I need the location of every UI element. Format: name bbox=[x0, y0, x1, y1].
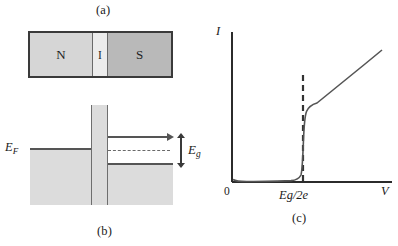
nis-junction-diagram: N I S bbox=[28, 31, 173, 78]
fermi-energy-symbol: E bbox=[5, 140, 13, 154]
energy-gap-label: Eg bbox=[188, 142, 201, 159]
gap-arrow-head-up-icon bbox=[177, 133, 185, 138]
energy-gap-subscript: g bbox=[196, 149, 201, 159]
fermi-level-dashed-line bbox=[108, 150, 170, 151]
superconductor-upper-band-edge bbox=[108, 136, 169, 138]
threshold-denominator: /2e bbox=[293, 188, 308, 202]
normal-metal-fermi-edge bbox=[30, 148, 91, 150]
tunneling-current-curve bbox=[233, 50, 382, 182]
fermi-energy-label: EF bbox=[5, 140, 18, 156]
region-label-n: N bbox=[56, 47, 65, 63]
gap-arrow-shaft bbox=[180, 137, 182, 164]
figure-root: (a) N I S EF Eg (b) bbox=[0, 0, 398, 246]
region-label-s: S bbox=[136, 47, 143, 63]
gap-arrow-head-down-icon bbox=[177, 163, 185, 168]
x-tick-threshold: Eg/2e bbox=[279, 185, 308, 203]
region-normal-metal: N bbox=[30, 33, 93, 76]
fermi-energy-subscript: F bbox=[13, 146, 19, 156]
region-insulator: I bbox=[93, 33, 108, 76]
insulating-barrier bbox=[91, 105, 108, 205]
iv-characteristic-panel: I V 0 Eg/2e bbox=[205, 22, 398, 222]
x-axis-label: V bbox=[381, 184, 389, 199]
caption-c: (c) bbox=[292, 211, 306, 226]
y-axis-label: I bbox=[216, 24, 220, 39]
x-tick-origin: 0 bbox=[224, 185, 230, 197]
caption-b: (b) bbox=[97, 224, 112, 239]
upper-band-arrow-icon bbox=[167, 133, 174, 141]
region-superconductor: S bbox=[108, 33, 171, 76]
superconductor-lower-band-edge bbox=[108, 163, 173, 165]
band-diagram-panel: EF Eg bbox=[0, 100, 210, 215]
threshold-symbol: E bbox=[279, 188, 287, 202]
region-label-i: I bbox=[98, 49, 102, 61]
superconductor-filled-band bbox=[108, 165, 173, 205]
energy-gap-symbol: E bbox=[188, 142, 196, 157]
normal-metal-filled-band bbox=[30, 150, 91, 205]
caption-a: (a) bbox=[96, 3, 110, 18]
